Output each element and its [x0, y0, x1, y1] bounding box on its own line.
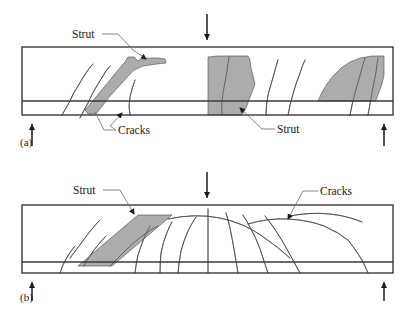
beam-crack-pattern-figure: StrutCracksStrut(a)StrutCracks(b): [0, 0, 413, 313]
strut-band-right: [318, 56, 384, 101]
panel-caption-b: (b): [20, 291, 33, 304]
crack-b-fan-1-overlay: [60, 246, 75, 273]
strut-label-a-bottom: Strut: [277, 123, 300, 135]
crack-b-fan-4: [178, 217, 196, 273]
crack-b-fan-8: [265, 216, 300, 273]
crack-a-5: [266, 60, 278, 115]
strut-band-middle: [208, 56, 255, 115]
cracks-label-b: Cracks: [320, 185, 352, 197]
crack-b-fan-4-overlay: [178, 217, 196, 273]
crack-b-tail-1: [348, 240, 368, 273]
crack-b-fan-6-overlay: [226, 213, 238, 273]
strut-label-b: Strut: [73, 184, 96, 196]
strut-parallelogram-b: [78, 215, 172, 266]
panel-b: StrutCracks(b): [20, 172, 393, 304]
crack-a-6: [288, 60, 305, 115]
crack-b-fan-7-overlay: [243, 215, 268, 273]
crack-a-5-overlay: [266, 60, 278, 115]
crack-b-fan-1: [60, 246, 75, 273]
crack-b-tail-1-overlay: [348, 240, 368, 273]
struts-group-b: [78, 215, 172, 266]
strut-label-a-top: Strut: [72, 28, 95, 40]
panel-caption-a: (a): [20, 136, 33, 149]
struts-group-a: [85, 56, 384, 115]
crack-b-fan-8-overlay: [265, 216, 300, 273]
crack-b-arc-3-overlay: [290, 213, 362, 222]
crack-a-6-overlay: [288, 60, 305, 115]
strut-label-b-leader: [103, 190, 134, 214]
crack-a-3-overlay: [129, 80, 135, 115]
crack-b-fan-7: [243, 215, 268, 273]
cracks-label-a: Cracks: [118, 124, 150, 136]
strut-label-a-bottom-leader: [240, 108, 275, 129]
panel-a: StrutCracksStrut(a): [20, 14, 393, 149]
panels-group: StrutCracksStrut(a)StrutCracks(b): [20, 14, 393, 304]
crack-b-fan-3: [160, 222, 172, 273]
